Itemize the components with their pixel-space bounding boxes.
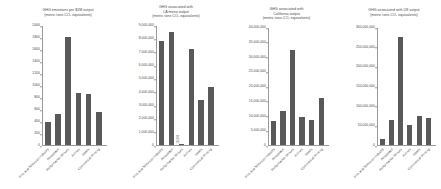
chart-title: GHG associated with California output (m… (224, 7, 333, 21)
x-axis-tick-label: Film and Television Industry (245, 148, 276, 179)
x-axis-tick-label: Airlines (184, 148, 194, 158)
bar-item (206, 26, 216, 145)
bar (426, 118, 431, 145)
bar-series (43, 26, 104, 145)
bar-item (167, 26, 177, 145)
bar (86, 94, 92, 145)
bar-item (94, 26, 104, 145)
y-axis-tick-label: 1800 (32, 36, 42, 39)
bar-item (316, 28, 326, 145)
bar-item (278, 28, 288, 145)
y-axis-tick-label: 0 (373, 144, 377, 147)
bar (55, 114, 61, 145)
x-axis-tick-label: Airlines (71, 148, 81, 158)
y-axis-tick-label: 200,000,000 (356, 66, 377, 69)
bar-item (415, 28, 424, 145)
x-axis-tick-label: Airlines (294, 148, 304, 158)
y-axis-tick-label: 250,000,000 (356, 46, 377, 49)
y-axis-tick-label: 40,000,000 (249, 26, 268, 29)
bar (96, 112, 102, 145)
bar-item: 130,000 (176, 26, 186, 145)
y-axis-tick-label: 600 (34, 108, 42, 111)
x-axis-line (42, 145, 107, 146)
chart-title: GHG associated with LA metro output (met… (114, 5, 224, 19)
bar-value-annotation: 130,000 (179, 135, 182, 144)
x-axis-line (268, 145, 329, 146)
bar (290, 50, 295, 145)
bar (169, 32, 174, 145)
bar (299, 117, 304, 146)
bar-item (424, 28, 433, 145)
bar-item (196, 26, 206, 145)
y-axis-tick-label: 100,000,000 (356, 105, 377, 108)
x-axis-tick-label: Commercial Printing (78, 148, 101, 171)
y-axis-tick-label: 3,000,000 (139, 104, 156, 107)
y-axis-tick-label: 1400 (32, 60, 42, 63)
chart-title: GHG emissions per $1M output (metric ton… (0, 8, 114, 17)
y-axis-tick-label: 200 (34, 132, 42, 135)
y-axis-tick-label: 1200 (32, 72, 42, 75)
bar-item (73, 26, 83, 145)
bar-item (378, 28, 387, 145)
bar (76, 93, 82, 146)
y-axis-tick-label: 1000 (32, 84, 42, 87)
y-axis-tick-label: 10,000,000 (249, 115, 268, 118)
bar-item (269, 28, 279, 145)
bar-series (269, 28, 326, 145)
x-axis-tick-label: Film and Television Industry (133, 148, 164, 179)
y-axis-tick-label: 30,000,000 (249, 56, 268, 59)
bar-item (297, 28, 307, 145)
plot-area: 01,000,0002,000,0003,000,0004,000,0005,0… (156, 26, 216, 146)
figure-canvas: GHG emissions per $1M output (metric ton… (0, 0, 441, 189)
y-axis-tick-label: 35,000,000 (249, 41, 268, 44)
y-axis-tick-label: 50,000,000 (358, 125, 377, 128)
y-axis-tick-label: 0 (152, 144, 156, 147)
bar-item (396, 28, 405, 145)
bar-item (288, 28, 298, 145)
bar (280, 111, 285, 146)
y-axis-tick-label: 0 (264, 144, 268, 147)
bar (45, 122, 51, 146)
x-axis-tick-label: Film and Television Industry (353, 148, 384, 179)
plot-area: 0200400600800100012001400160018002000 Fi… (42, 26, 104, 146)
plot-area: 050,000,000100,000,000150,000,000200,000… (377, 28, 433, 146)
chart-panel-ghg-per-million-output: GHG emissions per $1M output (metric ton… (0, 0, 114, 189)
bar-series: 130,000 (157, 26, 216, 145)
bar-item (63, 26, 73, 145)
y-axis-tick-label: 1,000,000 (139, 131, 156, 134)
bar (319, 98, 324, 146)
y-axis-tick-label: 15,000,000 (249, 100, 268, 103)
plot-area: 05,000,00010,000,00015,000,00020,000,000… (268, 28, 326, 146)
y-axis-tick-label: 300,000,000 (356, 26, 377, 29)
bar-item (307, 28, 317, 145)
y-axis-tick-label: 8,000,000 (139, 38, 156, 41)
y-axis-tick-label: 5,000,000 (251, 130, 268, 133)
y-axis-tick-label: 6,000,000 (139, 64, 156, 67)
bar (417, 116, 422, 146)
bar (271, 121, 276, 145)
y-axis-tick-label: 9,000,000 (139, 24, 156, 27)
y-axis-tick-label: 150,000,000 (356, 85, 377, 88)
bar-item (53, 26, 63, 145)
bar (389, 120, 394, 145)
y-axis-tick-label: 800 (34, 96, 42, 99)
bar (380, 139, 385, 145)
bar (65, 37, 71, 145)
chart-panel-ghg-california: GHG associated with California output (m… (224, 0, 333, 189)
bar (198, 100, 203, 145)
bar-item (84, 26, 94, 145)
bar (309, 120, 314, 145)
bar (398, 37, 403, 145)
y-axis-tick-label: 25,000,000 (249, 71, 268, 74)
y-axis-tick-label: 1600 (32, 48, 42, 51)
bar (208, 87, 213, 145)
bar (407, 125, 412, 146)
bar-series (378, 28, 433, 145)
y-axis-tick-label: 2,000,000 (139, 118, 156, 121)
bar-item (157, 26, 167, 145)
y-axis-tick-label: 400 (34, 120, 42, 123)
y-axis-tick-label: 4,000,000 (139, 91, 156, 94)
chart-panel-ghg-la-metro: GHG associated with LA metro output (met… (114, 0, 224, 189)
y-axis-tick-label: 7,000,000 (139, 51, 156, 54)
y-axis-tick-label: 20,000,000 (249, 85, 268, 88)
